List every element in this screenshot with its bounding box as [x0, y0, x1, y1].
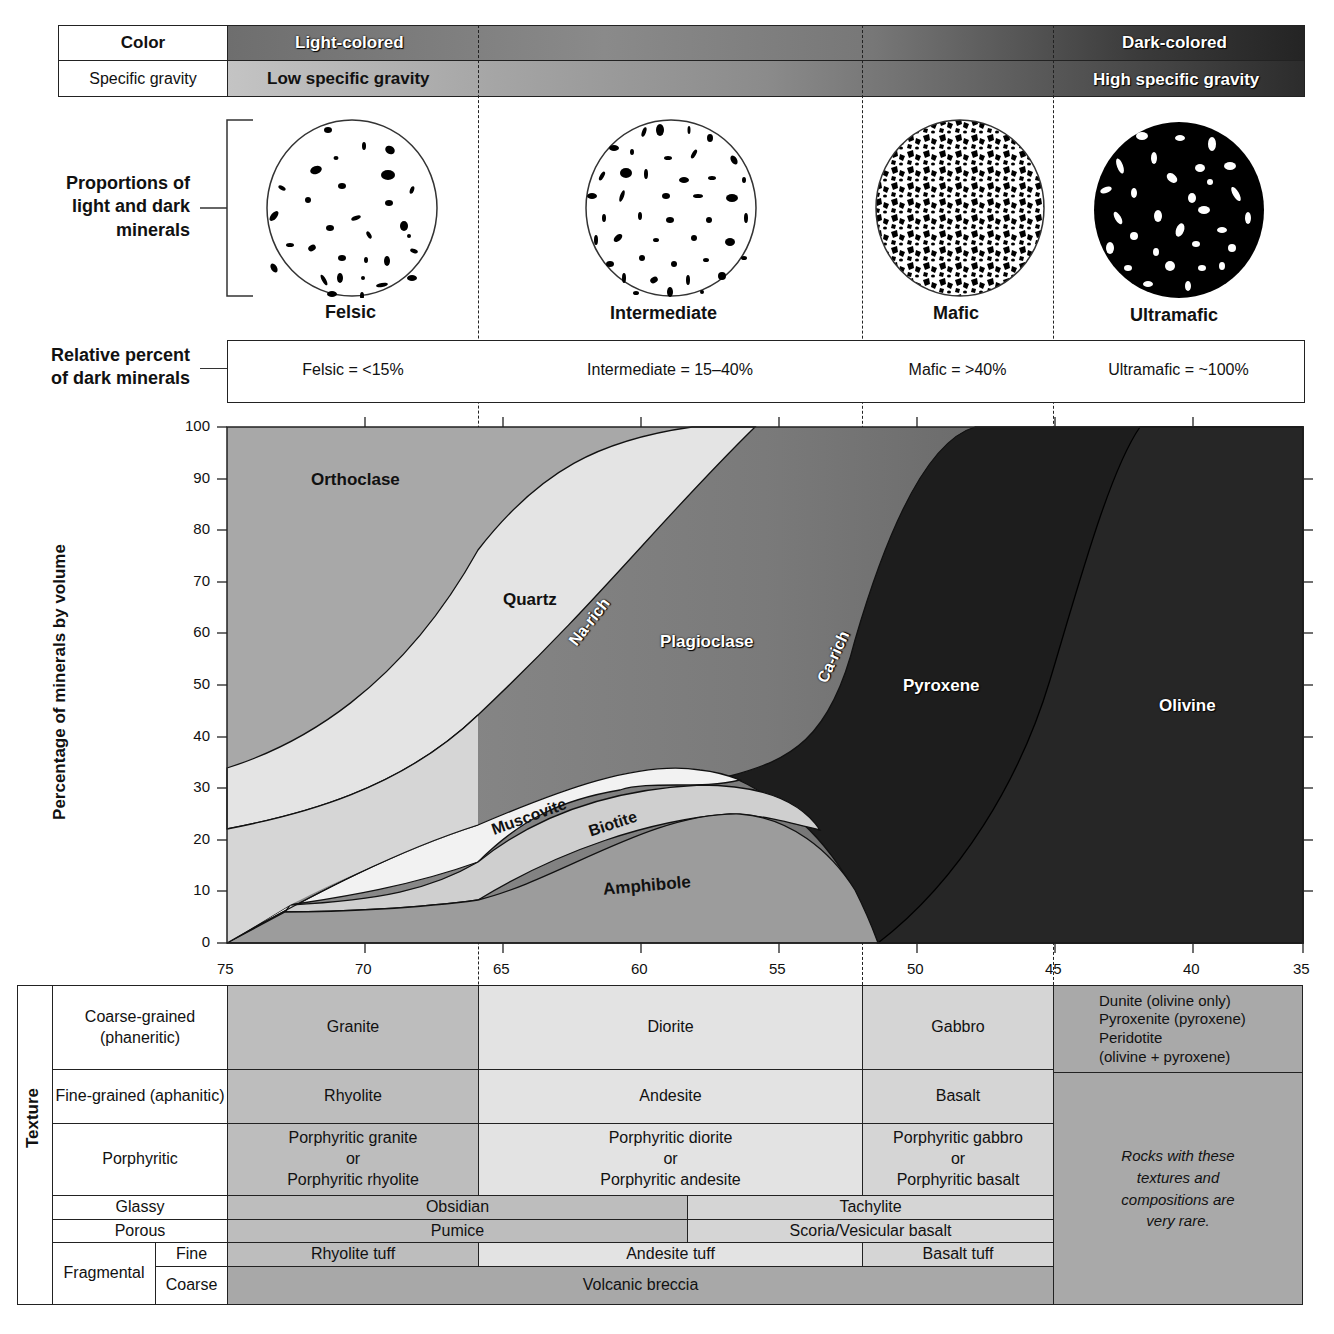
cell-volcanic-breccia: Volcanic breccia [227, 1266, 1054, 1305]
proportions-label-line3: minerals [30, 219, 190, 242]
x-tick-labels: 75 70 65 60 55 50 45 40 35 [0, 960, 1334, 980]
cell-tachylite: Tachylite [687, 1195, 1054, 1220]
proportions-label: Proportions of light and dark minerals [30, 172, 190, 242]
region-label-quartz: Quartz [503, 590, 557, 610]
rare-text-line3: compositions are [1121, 1189, 1234, 1211]
color-label: Color [58, 25, 228, 61]
cell-basalt-tuff: Basalt tuff [862, 1242, 1054, 1267]
proportions-label-line1: Proportions of [30, 172, 190, 195]
cell-andesite-tuff: Andesite tuff [478, 1242, 863, 1267]
region-label-orthoclase: Orthoclase [311, 470, 400, 490]
row-label-fragmental-coarse: Coarse [155, 1266, 228, 1305]
relative-percent-line2: of dark minerals [20, 367, 190, 390]
proportions-bracket [195, 118, 255, 300]
cell-porphyritic-diorite: Porphyritic diorite or Porphyritic andes… [478, 1123, 863, 1196]
x-tick-35: 35 [1293, 960, 1310, 977]
relative-percent-line1: Relative percent [20, 344, 190, 367]
felsic-percent: Felsic = <15% [228, 341, 478, 399]
pyroxenite-text: Pyroxenite (pyroxene) [1099, 1010, 1246, 1029]
intermediate-label: Intermediate [610, 303, 717, 324]
felsic-circle-icon [264, 118, 440, 298]
mafic-percent: Mafic = >40% [862, 341, 1053, 399]
region-label-olivine: Olivine [1159, 696, 1216, 716]
dunite-text: Dunite (olivine only) [1099, 992, 1231, 1011]
rare-text-line2: textures and [1137, 1167, 1220, 1189]
cell-rhyolite-tuff: Rhyolite tuff [227, 1242, 479, 1267]
high-gravity-label: High specific gravity [1093, 70, 1259, 90]
y-tick-100: 100 [185, 417, 210, 434]
x-tick-75: 75 [217, 960, 234, 977]
row-label-fragmental-fine: Fine [155, 1242, 228, 1267]
ultramafic-percent: Ultramafic = ~100% [1053, 341, 1304, 399]
x-tick-50: 50 [907, 960, 924, 977]
texture-side-label: Texture [23, 1083, 43, 1153]
cell-rhyolite: Rhyolite [227, 1069, 479, 1124]
ultramafic-circle-icon [1092, 118, 1266, 300]
y-tick-80: 80 [193, 520, 210, 537]
rare-text-line4: very rare. [1146, 1210, 1209, 1232]
y-tick-0: 0 [202, 933, 210, 950]
row-label-porphyritic: Porphyritic [52, 1123, 228, 1196]
ultramafic-label: Ultramafic [1130, 305, 1218, 326]
peridotite-composition-text: (olivine + pyroxene) [1099, 1048, 1230, 1067]
cell-basalt: Basalt [862, 1069, 1054, 1124]
y-tick-20: 20 [193, 830, 210, 847]
y-tick-90: 90 [193, 469, 210, 486]
cell-andesite: Andesite [478, 1069, 863, 1124]
intermediate-circle-icon [584, 118, 758, 298]
proportions-label-line2: light and dark [30, 195, 190, 218]
region-label-plagioclase: Plagioclase [660, 632, 754, 652]
cell-ultramafic-rare: Rocks with these textures and compositio… [1053, 1072, 1303, 1305]
light-colored-label: Light-colored [295, 33, 404, 53]
specific-gravity-label: Specific gravity [58, 60, 228, 97]
cell-porphyritic-granite: Porphyritic granite or Porphyritic rhyol… [227, 1123, 479, 1196]
row-label-fine-grained: Fine-grained (aphanitic) [52, 1069, 228, 1124]
cell-scoria: Scoria/Vesicular basalt [687, 1219, 1054, 1243]
dark-colored-label: Dark-colored [1122, 33, 1227, 53]
x-tick-40: 40 [1183, 960, 1200, 977]
y-tick-70: 70 [193, 572, 210, 589]
mineral-composition-chart [0, 405, 1334, 985]
y-tick-30: 30 [193, 778, 210, 795]
cell-granite: Granite [227, 985, 479, 1070]
x-tick-55: 55 [769, 960, 786, 977]
felsic-label: Felsic [325, 302, 376, 323]
row-label-glassy: Glassy [52, 1195, 228, 1220]
cell-obsidian: Obsidian [227, 1195, 688, 1220]
relative-percent-label: Relative percent of dark minerals [20, 344, 190, 391]
y-tick-50: 50 [193, 675, 210, 692]
x-tick-60: 60 [631, 960, 648, 977]
mafic-label: Mafic [933, 303, 979, 324]
region-label-pyroxene: Pyroxene [903, 676, 980, 696]
cell-diorite: Diorite [478, 985, 863, 1070]
cell-porphyritic-gabbro: Porphyritic gabbro or Porphyritic basalt [862, 1123, 1054, 1196]
row-label-coarse-grained: Coarse-grained (phaneritic) [52, 985, 228, 1070]
rare-text-line1: Rocks with these [1121, 1145, 1234, 1167]
low-gravity-label: Low specific gravity [267, 69, 430, 89]
peridotite-text: Peridotite [1099, 1029, 1162, 1048]
x-tick-70: 70 [355, 960, 372, 977]
cell-ultramafic-coarse: Dunite (olivine only) Pyroxenite (pyroxe… [1053, 985, 1303, 1073]
mafic-circle-icon [874, 118, 1046, 298]
y-tick-10: 10 [193, 881, 210, 898]
y-tick-60: 60 [193, 623, 210, 640]
intermediate-percent: Intermediate = 15–40% [478, 341, 862, 399]
x-tick-65: 65 [493, 960, 510, 977]
x-tick-45: 45 [1045, 960, 1062, 977]
y-tick-40: 40 [193, 727, 210, 744]
relative-percent-connector [200, 368, 227, 369]
row-label-fragmental: Fragmental [52, 1242, 156, 1305]
row-label-porous: Porous [52, 1219, 228, 1243]
cell-gabbro: Gabbro [862, 985, 1054, 1070]
y-axis-label: Percentage of minerals by volume [50, 522, 70, 842]
cell-pumice: Pumice [227, 1219, 688, 1243]
